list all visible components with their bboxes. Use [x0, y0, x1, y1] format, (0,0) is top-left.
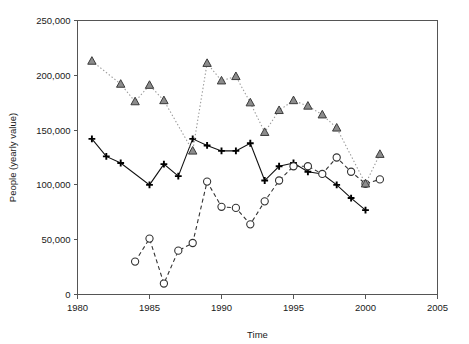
data-point-marker	[261, 198, 268, 205]
data-point-marker	[247, 140, 254, 147]
y-tick-label: 50,000	[41, 234, 70, 245]
data-point-marker	[290, 163, 297, 170]
data-point-marker	[276, 177, 283, 184]
data-point-marker	[376, 150, 384, 158]
data-point-marker	[304, 102, 312, 110]
data-point-marker	[160, 280, 167, 287]
data-point-marker	[146, 235, 153, 242]
data-point-marker	[204, 178, 211, 185]
series-plus-series	[89, 135, 369, 213]
y-tick-label: 200,000	[36, 70, 70, 81]
data-point-marker	[318, 110, 326, 118]
x-tick-label: 1995	[283, 302, 304, 313]
x-tick-label: 1980	[67, 302, 88, 313]
data-point-marker	[132, 258, 139, 265]
data-series	[88, 57, 384, 287]
data-point-marker	[376, 176, 383, 183]
data-point-marker	[247, 221, 254, 228]
data-point-marker	[204, 142, 211, 149]
data-point-marker	[233, 148, 240, 155]
data-point-marker	[289, 96, 297, 104]
x-axis-title: Time	[247, 329, 268, 340]
data-point-marker	[175, 247, 182, 254]
data-point-marker	[304, 163, 311, 170]
series-line	[135, 158, 380, 284]
x-tick-label: 2000	[355, 302, 376, 313]
data-point-marker	[232, 72, 240, 80]
data-point-marker	[189, 135, 196, 142]
series-circle-series	[132, 154, 384, 287]
x-tick-label: 2005	[427, 302, 448, 313]
data-point-marker	[218, 203, 225, 210]
x-tick-label: 1985	[139, 302, 160, 313]
data-point-marker	[218, 148, 225, 155]
chart-canvas: 050,000100,000150,000200,000250,00019801…	[0, 0, 469, 344]
data-point-marker	[333, 154, 340, 161]
data-point-marker	[117, 80, 125, 88]
y-axis-title: People (yearly value)	[7, 113, 18, 202]
axis-ticks	[74, 21, 438, 299]
y-tick-label: 0	[65, 289, 70, 300]
data-point-marker	[203, 59, 211, 67]
data-point-marker	[319, 170, 326, 177]
data-point-marker	[88, 57, 96, 65]
data-point-marker	[348, 168, 355, 175]
data-point-marker	[145, 81, 153, 89]
data-point-marker	[333, 124, 341, 132]
x-tick-label: 1990	[211, 302, 232, 313]
y-tick-label: 250,000	[36, 15, 70, 26]
data-point-marker	[261, 128, 269, 136]
data-point-marker	[232, 204, 239, 211]
series-triangle-series	[88, 57, 384, 187]
y-tick-label: 150,000	[36, 125, 70, 136]
data-point-marker	[246, 98, 254, 106]
y-tick-label: 100,000	[36, 179, 70, 190]
data-point-marker	[189, 239, 196, 246]
data-point-marker	[275, 106, 283, 114]
chart-container: 050,000100,000150,000200,000250,00019801…	[0, 0, 469, 344]
